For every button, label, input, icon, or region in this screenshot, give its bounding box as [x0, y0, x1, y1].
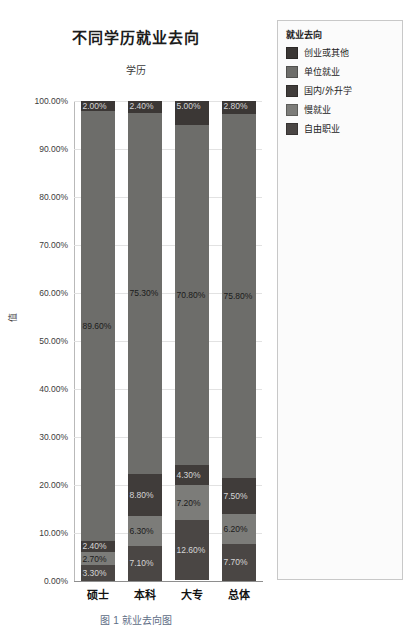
y-tick-label: 70.00% [6, 240, 68, 250]
y-tick-label: 0.00% [6, 576, 68, 586]
bar-segment[interactable]: 2.70% [81, 552, 115, 565]
bar-segment-label: 2.70% [83, 554, 107, 563]
legend-item-label: 国内/外升学 [304, 84, 352, 97]
bar-segment-label: 75.30% [130, 289, 159, 298]
bar-segment-label: 2.40% [130, 102, 154, 111]
bar-segment-label: 6.20% [224, 525, 248, 534]
bar-segment-label: 7.10% [130, 559, 154, 568]
y-tick-label: 40.00% [6, 384, 68, 394]
legend-item[interactable]: 自由职业 [286, 122, 402, 135]
bar-segment-label: 89.60% [83, 321, 112, 330]
bar-segment-label: 12.60% [177, 546, 206, 555]
bar-segment[interactable]: 75.30% [128, 113, 162, 474]
chart-panel: 不同学历就业去向 学历 值 100.00%90.00%80.00%70.00%6… [0, 0, 272, 625]
bar-segment[interactable]: 5.00% [175, 101, 209, 125]
bar-segment[interactable]: 7.20% [175, 485, 209, 520]
x-tick-label: 硕士 [75, 586, 121, 602]
legend-swatch [286, 123, 298, 135]
y-tick-label: 100.00% [6, 96, 68, 106]
bottom-caption: 图 1 就业去向图 [0, 612, 272, 625]
bar-segment[interactable]: 75.80% [222, 114, 256, 478]
y-tick-label: 10.00% [6, 528, 68, 538]
bar-segment[interactable]: 2.00% [81, 101, 115, 111]
x-tick-label: 总体 [216, 586, 262, 602]
bar-segment[interactable]: 2.40% [128, 101, 162, 113]
legend-item-label: 慢就业 [304, 103, 331, 116]
y-axis-title: 值 [6, 313, 19, 322]
bar-segment[interactable]: 4.30% [175, 465, 209, 486]
bar-segment[interactable]: 2.80% [222, 101, 256, 114]
y-tick-label: 20.00% [6, 480, 68, 490]
y-tick-label: 60.00% [6, 288, 68, 298]
bar-segment-label: 2.00% [83, 102, 107, 111]
bar-segment[interactable]: 3.30% [81, 565, 115, 581]
bar-segment[interactable]: 89.60% [81, 111, 115, 541]
y-tick-label: 80.00% [6, 192, 68, 202]
bar-总体[interactable]: 2.80%75.80%7.50%6.20%7.70% [222, 101, 256, 581]
bar-segment[interactable]: 8.80% [128, 474, 162, 516]
legend-swatch [286, 47, 298, 59]
legend-item-label: 单位就业 [304, 65, 340, 78]
bar-segment-label: 6.30% [130, 527, 154, 536]
bar-本科[interactable]: 2.40%75.30%8.80%6.30%7.10% [128, 101, 162, 581]
legend-swatch [286, 85, 298, 97]
bar-segment[interactable]: 2.40% [81, 541, 115, 553]
bar-硕士[interactable]: 2.00%89.60%2.40%2.70%3.30% [81, 101, 115, 581]
chart-title: 不同学历就业去向 [0, 26, 272, 47]
x-axis-title: 学历 [0, 62, 272, 77]
bar-segment[interactable]: 7.10% [128, 546, 162, 580]
bar-segment-label: 2.80% [224, 102, 248, 111]
x-tick-label: 本科 [122, 586, 168, 602]
bar-segment[interactable]: 12.60% [175, 520, 209, 580]
y-tick-label: 90.00% [6, 144, 68, 154]
bar-segment-label: 7.50% [224, 492, 248, 501]
bar-segment-label: 4.30% [177, 471, 201, 480]
bar-segment[interactable]: 6.20% [222, 514, 256, 544]
legend-item-label: 自由职业 [304, 122, 340, 135]
legend-item-label: 创业或其他 [304, 46, 349, 59]
plot-area: 2.00%89.60%2.40%2.70%3.30%2.40%75.30%8.8… [74, 101, 262, 581]
bar-segment-label: 2.40% [83, 542, 107, 551]
legend-item[interactable]: 国内/外升学 [286, 84, 402, 97]
y-tick-label: 30.00% [6, 432, 68, 442]
bar-segment[interactable]: 70.80% [175, 125, 209, 465]
x-tick-label: 大专 [169, 586, 215, 602]
bar-segment-label: 8.80% [130, 491, 154, 500]
legend-swatch [286, 66, 298, 78]
legend-item[interactable]: 创业或其他 [286, 46, 402, 59]
bar-segment[interactable]: 6.30% [128, 516, 162, 546]
bar-segment-label: 75.80% [224, 292, 253, 301]
legend-items: 创业或其他单位就业国内/外升学慢就业自由职业 [278, 46, 402, 135]
bar-大专[interactable]: 5.00%70.80%4.30%7.20%12.60% [175, 101, 209, 581]
bar-segment-label: 7.70% [224, 558, 248, 567]
y-tick-label: 50.00% [6, 336, 68, 346]
legend-title: 就业去向 [286, 28, 402, 41]
bar-segment[interactable]: 7.70% [222, 544, 256, 581]
legend-item[interactable]: 慢就业 [286, 103, 402, 116]
bar-segment-label: 7.20% [177, 498, 201, 507]
bar-segment-label: 5.00% [177, 102, 201, 111]
bar-segment[interactable]: 7.50% [222, 478, 256, 514]
legend: 就业去向 创业或其他单位就业国内/外升学慢就业自由职业 [277, 20, 403, 580]
legend-item[interactable]: 单位就业 [286, 65, 402, 78]
x-axis-line [74, 581, 263, 582]
bar-segment-label: 3.30% [83, 569, 107, 578]
legend-swatch [286, 104, 298, 116]
bar-segment-label: 70.80% [177, 291, 206, 300]
